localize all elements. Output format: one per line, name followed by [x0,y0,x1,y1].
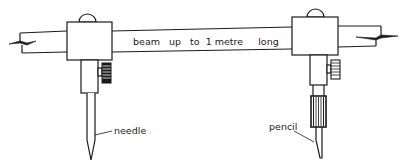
left-screw-shaft [98,68,102,76]
left-clamp [67,14,112,93]
right-screw-shaft [327,65,331,73]
beam-break-right-icon [356,35,398,40]
beam-label: beam up to 1 metre long [133,36,279,47]
right-knurled-knob-icon[interactable] [331,60,340,79]
right-clamp [292,9,340,85]
left-clamp-stem [81,60,98,93]
pencil-label: pencil [269,121,297,132]
right-clamp-dome [307,9,324,17]
pencil-leader-line [294,131,314,142]
pencil [294,85,326,158]
beam-compass-diagram: beam up to 1 metre long needle [0,0,403,168]
beam-break-left-icon [9,41,36,45]
needle-label: needle [114,125,146,136]
needle [87,93,112,160]
left-clamp-dome [79,14,96,22]
right-clamp-block [292,17,338,55]
left-knurled-knob-icon[interactable] [102,63,111,83]
right-clamp-stem [310,55,327,85]
left-clamp-block [67,22,112,60]
needle-leader-line [95,131,112,135]
pencil-knurled-sleeve [311,96,326,127]
